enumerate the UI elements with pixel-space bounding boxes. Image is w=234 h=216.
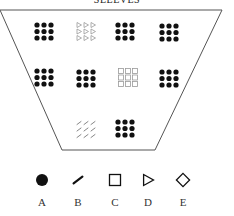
legend-label-b: B: [68, 196, 88, 208]
container-outline: [0, 10, 222, 150]
sleeves-diagram: [0, 0, 234, 216]
dot-group-r1c4: [159, 23, 178, 41]
dot-group-r2c4: [159, 69, 178, 87]
dot-group-r3c3: [115, 119, 134, 137]
legend-label-d: D: [138, 196, 158, 208]
legend-dot-icon: [36, 174, 48, 186]
square-group-r2c3: [119, 69, 138, 87]
triangle-group-r1c2: [77, 23, 96, 41]
slash-group-r3c2: [77, 122, 95, 138]
dot-group-r2c1: [34, 68, 53, 86]
dot-group-r2c2: [76, 69, 95, 87]
legend-triangle-icon: [144, 175, 154, 186]
legend-label-e: E: [173, 196, 193, 208]
dot-group-r1c3: [115, 22, 134, 40]
legend-diamond-icon: [176, 173, 189, 186]
legend-label-c: C: [105, 196, 125, 208]
legend-slash-icon: [74, 177, 83, 184]
dot-group-r1c1: [34, 22, 53, 40]
legend-square-icon: [110, 175, 121, 186]
legend-label-a: A: [32, 196, 52, 208]
